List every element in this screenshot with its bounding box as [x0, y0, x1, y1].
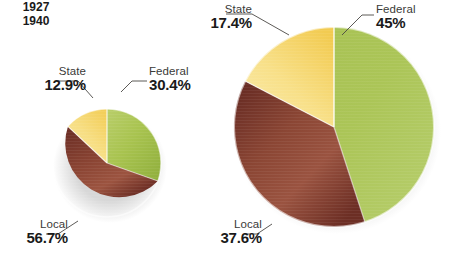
label-1927-state: State 12.9% — [20, 66, 86, 92]
pie-1940 — [226, 14, 441, 234]
label-1940-local-value: 37.6% — [196, 230, 262, 245]
label-1940-federal: Federal 45% — [376, 4, 460, 30]
label-1940-local: Local 37.6% — [196, 219, 262, 245]
label-1927-local-value: 56.7% — [2, 230, 68, 245]
label-1927-federal-value: 30.4% — [149, 77, 225, 92]
label-1940-federal-value: 45% — [376, 15, 460, 30]
label-1940-state-value: 17.4% — [190, 15, 252, 30]
leader-line-1927-federal — [121, 81, 147, 92]
pie-chart-figure: State 12.9% Federal 30.4% Local 56.7% 19… — [0, 0, 465, 279]
label-1927-local: Local 56.7% — [2, 219, 68, 245]
pie-1927 — [46, 81, 167, 234]
label-1927-state-value: 12.9% — [20, 77, 86, 92]
label-1927-federal: Federal 30.4% — [149, 66, 225, 92]
label-1940-state: State 17.4% — [190, 4, 252, 30]
pie-1940-texture — [234, 27, 434, 227]
